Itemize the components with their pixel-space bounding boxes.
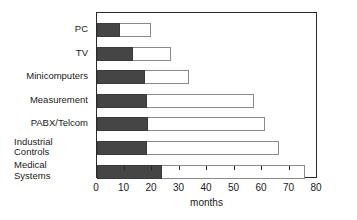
bar-segment-dark: [97, 94, 147, 108]
bar-segment-dark: [97, 117, 148, 131]
category-label: Minicomputers: [0, 71, 92, 82]
x-axis-tick-label: 20: [145, 182, 156, 193]
x-axis-tick: [124, 166, 125, 170]
x-axis-tick: [289, 166, 290, 170]
bar-segment-light: [120, 23, 150, 37]
bar-segment-light: [147, 94, 254, 108]
bar-segment-dark: [97, 47, 133, 61]
bar-segment-light: [133, 47, 172, 61]
bar-segment-light: [145, 70, 189, 84]
category-label-column: PCTVMinicomputersMeasurementPABX/TelcomI…: [0, 12, 92, 178]
category-label: Industrial Controls: [0, 137, 92, 158]
x-axis-tick-label: 50: [228, 182, 239, 193]
plot-area: [96, 12, 317, 178]
x-axis-tick-label: 30: [173, 182, 184, 193]
x-axis-tick-label: 70: [283, 182, 294, 193]
category-label: TV: [0, 48, 92, 59]
x-axis-tick: [206, 166, 207, 170]
x-axis-tick: [151, 166, 152, 170]
category-label: PABX/Telcom: [0, 118, 92, 129]
x-axis-title: months: [96, 197, 317, 208]
x-axis-tick-label: 40: [200, 182, 211, 193]
bar-segment-dark: [97, 70, 145, 84]
x-axis-tick: [316, 166, 317, 170]
x-axis-tick: [261, 166, 262, 170]
x-axis-tick-label: 10: [118, 182, 129, 193]
bar-segment-dark: [97, 141, 147, 155]
x-axis-tick-label: 0: [93, 182, 99, 193]
category-label: Measurement: [0, 95, 92, 106]
bar-segment-light: [148, 117, 265, 131]
bar-segment-light: [147, 141, 279, 155]
bar-segment-dark: [97, 23, 120, 37]
x-axis-tick: [234, 166, 235, 170]
category-label: Medical Systems: [0, 160, 92, 181]
chart-screenshot: PCTVMinicomputersMeasurementPABX/TelcomI…: [0, 0, 357, 220]
x-axis-tick: [179, 166, 180, 170]
x-axis-tick-label: 80: [310, 182, 321, 193]
x-axis-tick-label: 60: [255, 182, 266, 193]
x-axis-tick: [96, 166, 97, 170]
category-label: PC: [0, 24, 92, 35]
